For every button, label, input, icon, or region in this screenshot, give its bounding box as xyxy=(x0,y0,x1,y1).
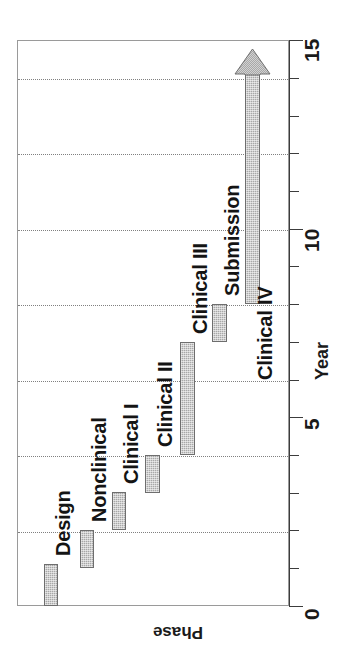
bar-label-nonclinical: Nonclinical xyxy=(88,418,111,523)
year-tick-3 xyxy=(290,493,299,494)
bar-nonclinical xyxy=(80,530,94,568)
year-tick-6 xyxy=(290,380,299,381)
year-tick-1 xyxy=(290,568,299,569)
chart-canvas: Design Nonclinical Clinical I Clinical I… xyxy=(0,0,364,657)
bar-label-clinical-iv: Clinical IV xyxy=(254,287,277,380)
year-tick-4 xyxy=(290,455,299,456)
bar-label-clinical-iii: Clinical III xyxy=(189,243,212,334)
year-tick-8 xyxy=(290,304,299,305)
year-tick-13 xyxy=(290,116,299,117)
year-tick-9 xyxy=(290,266,299,267)
bar-clinical-ii xyxy=(145,455,160,493)
gridline-year-8 xyxy=(18,305,288,306)
year-tick-12 xyxy=(290,153,299,154)
year-axis-line xyxy=(289,40,290,607)
bar-clinical-iv-shaft xyxy=(245,73,260,304)
bar-label-clinical-ii: Clinical II xyxy=(154,361,177,447)
bar-design xyxy=(44,564,58,606)
year-axis-title: Year xyxy=(312,342,333,380)
year-tick-label-15: 15 xyxy=(300,39,324,62)
bar-label-clinical-i: Clinical I xyxy=(120,404,143,484)
year-tick-14 xyxy=(290,78,299,79)
gridline-year-6 xyxy=(18,381,288,382)
year-tick-label-0: 0 xyxy=(300,608,324,620)
arrowhead-shape xyxy=(234,48,271,76)
bar-label-submission: Submission xyxy=(221,185,244,296)
year-tick-11 xyxy=(290,191,299,192)
bar-clinical-iii xyxy=(180,342,195,455)
year-tick-label-10: 10 xyxy=(300,229,324,252)
bar-clinical-i xyxy=(112,492,126,530)
year-tick-label-5: 5 xyxy=(300,418,324,430)
phase-axis-title: Phase xyxy=(118,622,238,642)
year-tick-0 xyxy=(290,606,303,607)
year-tick-2 xyxy=(290,530,299,531)
bar-label-design: Design xyxy=(52,491,75,556)
bar-clinical-iv-arrowhead xyxy=(234,48,271,76)
bar-submission xyxy=(212,304,227,342)
year-tick-7 xyxy=(290,342,299,343)
